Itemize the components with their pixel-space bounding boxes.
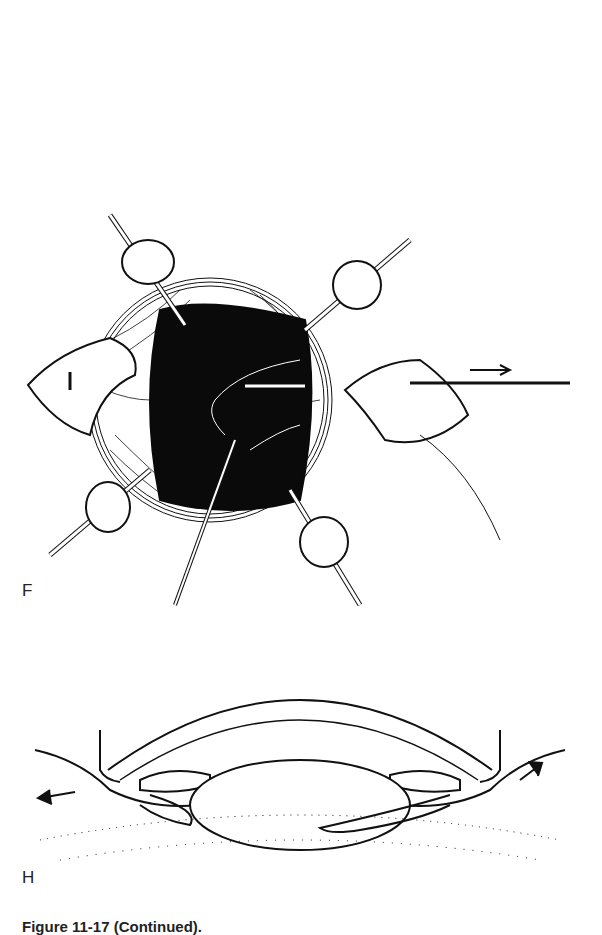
figure-h-illustration: [0, 670, 602, 880]
figure-caption: Figure 11-17 (Continued).: [22, 918, 202, 935]
figure-f-illustration: [0, 200, 602, 620]
figure-label-h: H: [22, 868, 34, 888]
figure-label-f: F: [22, 581, 32, 601]
